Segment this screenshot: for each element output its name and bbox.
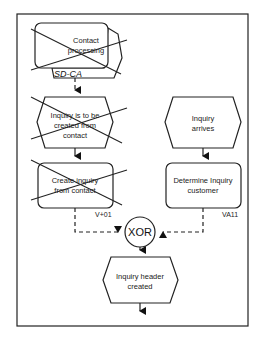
event-label-3: contact [63, 131, 88, 140]
xor-connector[interactable]: XOR [125, 217, 155, 247]
event-inquiry-header-created[interactable]: Inquiry header created [103, 257, 178, 303]
xor-label: XOR [128, 226, 152, 238]
function-label-1: Create inquiry [52, 176, 99, 185]
event-inquiry-arrives[interactable]: Inquiry arrives [165, 97, 241, 148]
event-label-2: arrives [192, 124, 215, 133]
function-label-2: customer [188, 186, 219, 195]
function-code: V+01 [95, 211, 112, 218]
function-code: VA11 [222, 211, 238, 218]
epc-diagram: Contact processing SD-CA Inquiry is to b… [0, 0, 262, 344]
process-interface-label-1: Contact [73, 36, 100, 45]
process-interface-tag: SD-CA [54, 69, 82, 79]
event-label-2: created [127, 282, 152, 291]
event-label-1: Inquiry header [116, 272, 164, 281]
event-label-2: created from [54, 121, 96, 130]
event-label-1: Inquiry [192, 114, 215, 123]
function-label-1: Determine Inquiry [173, 176, 232, 185]
